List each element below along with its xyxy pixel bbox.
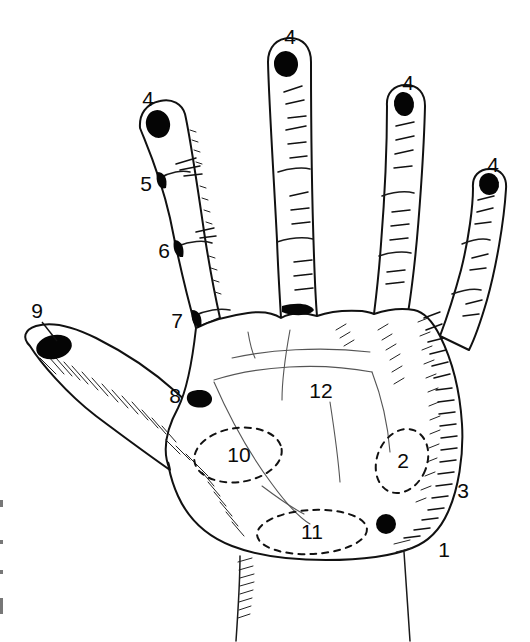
label-wrist-ulnar: 1 <box>438 538 450 561</box>
label-middle-tip: 4 <box>284 25 296 48</box>
hand-diagram-figure: 4 4 4 4 5 6 7 8 9 10 11 2 12 3 1 <box>0 0 530 642</box>
label-distal-wrist: 11 <box>301 520 323 543</box>
label-ring-tip: 4 <box>402 71 414 94</box>
little-finger-outline <box>440 169 506 350</box>
label-little-tip: 4 <box>487 153 499 176</box>
label-hypothenar-region: 2 <box>397 449 409 472</box>
label-index-dip: 5 <box>140 172 152 195</box>
label-index-mcp: 7 <box>171 309 183 332</box>
margin-mark-3 <box>0 570 3 574</box>
label-index-pip: 6 <box>158 239 170 262</box>
label-index-web: 8 <box>169 384 181 407</box>
margin-mark-1 <box>0 500 3 507</box>
label-thenar-region: 10 <box>227 443 250 466</box>
index-web-wedge <box>187 390 212 408</box>
margin-crop-marks <box>0 500 3 614</box>
wrist-line-ulnar <box>404 552 410 641</box>
hypothenar-dot <box>376 514 396 534</box>
label-palm-center: 12 <box>309 379 332 402</box>
label-ulnar-border: 3 <box>457 479 469 502</box>
margin-mark-2 <box>0 540 3 544</box>
label-thumb-tip: 9 <box>31 299 43 322</box>
wrist-line-radial <box>236 556 240 641</box>
label-index-tip: 4 <box>142 87 154 110</box>
hand-outline-group <box>25 38 506 641</box>
margin-mark-4 <box>0 598 3 614</box>
middle-finger-outline <box>268 38 317 318</box>
hand-drawing-canvas: 4 4 4 4 5 6 7 8 9 10 11 2 12 3 1 <box>0 0 530 642</box>
